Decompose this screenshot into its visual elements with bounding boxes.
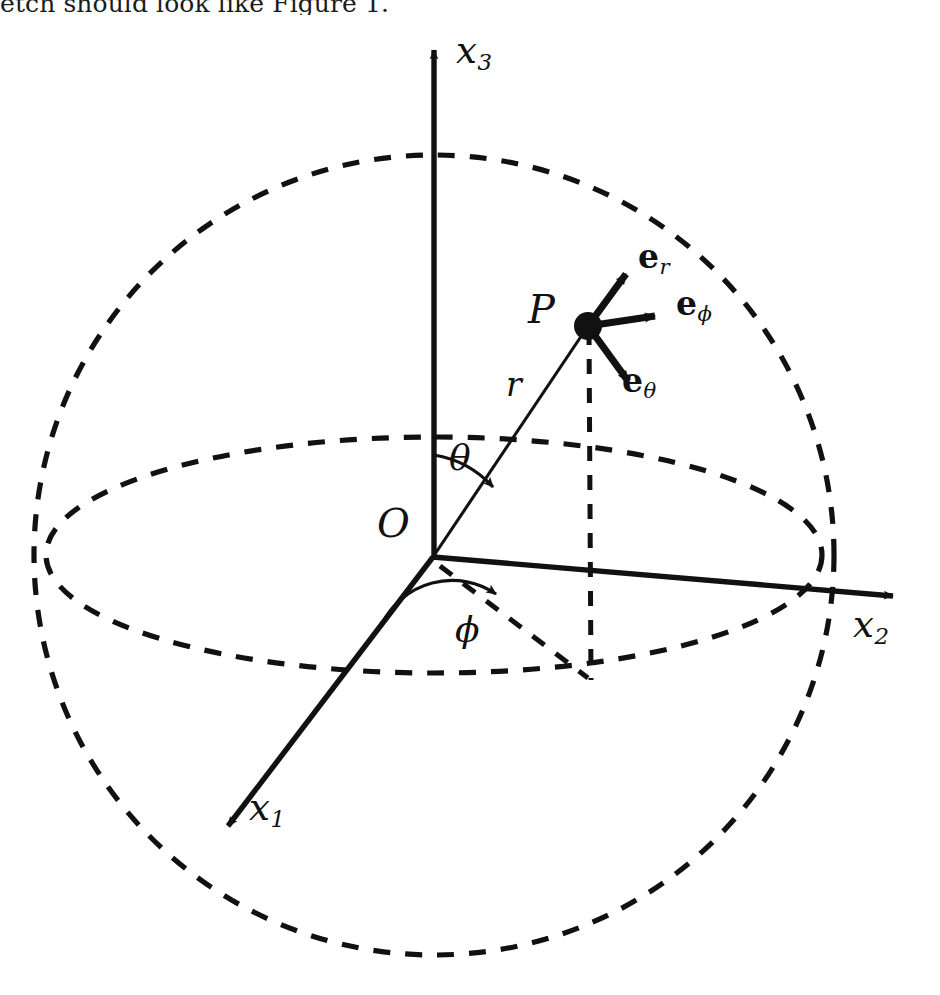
azimuthal-angle-label: ϕ: [455, 612, 480, 648]
spherical-coordinates-diagram: [0, 0, 940, 995]
polar-angle-label: θ: [449, 440, 471, 476]
p-vertical-drop-line: [589, 330, 591, 680]
basis-vector-e-phi-base: e: [676, 284, 697, 323]
axis-label-x2-sub: 2: [874, 623, 889, 649]
basis-vector-e-theta-label: eθ: [622, 364, 656, 401]
figure-root: etch should look like Figure 1.: [0, 0, 940, 995]
basis-vector-e-theta-base: e: [622, 361, 643, 400]
radius-label: r: [506, 368, 522, 401]
point-p-label: P: [528, 289, 555, 329]
axis-x2-line: [433, 557, 893, 596]
axis-label-x2-base: x: [853, 603, 874, 646]
axis-label-x1-sub: 1: [270, 806, 285, 832]
basis-vector-e-r-base: e: [638, 237, 659, 276]
axis-label-x2: x2: [853, 606, 889, 648]
axis-label-x1: x1: [249, 789, 285, 831]
axis-label-x3-base: x: [456, 29, 477, 72]
basis-vector-e-phi-sub: ϕ: [698, 301, 712, 326]
basis-vector-e-r-label: er: [638, 240, 670, 277]
axis-label-x1-base: x: [249, 786, 270, 829]
origin-label: O: [377, 503, 410, 543]
axis-label-x3-sub: 3: [477, 49, 492, 75]
basis-vector-e-phi-label: eϕ: [676, 287, 712, 324]
basis-vector-e-r-sub: r: [660, 254, 670, 279]
basis-vector-e-theta-sub: θ: [644, 378, 657, 403]
axis-label-x3: x3: [456, 32, 492, 74]
